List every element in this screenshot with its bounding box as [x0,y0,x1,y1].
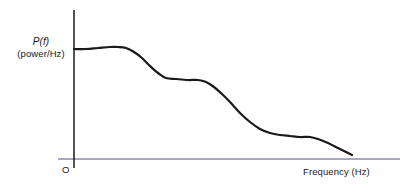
psd-chart-figure: P(f) (power/Hz) Frequency (Hz) O [0,0,413,188]
origin-label: O [62,164,70,176]
y-axis-label-units: (power/Hz) [12,48,70,60]
x-axis-label: Frequency (Hz) [303,166,370,178]
psd-curve-path [74,47,352,155]
chart-canvas [0,0,413,188]
y-axis-label-symbol: P(f) [12,36,70,48]
y-axis-label: P(f) (power/Hz) [12,36,70,59]
